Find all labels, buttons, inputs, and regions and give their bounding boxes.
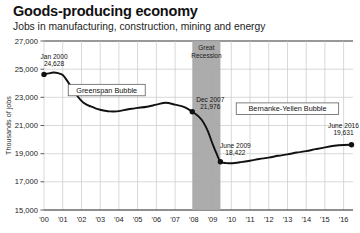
x-axis-tick-label: '13 (283, 215, 293, 224)
x-axis-tick-label: '02 (77, 215, 87, 224)
recession-band: GreatRecession (191, 41, 222, 210)
dec-2007-point-marker (190, 109, 195, 114)
x-axis-tick-label: '16 (339, 215, 349, 224)
dec-2007-point-label-value: 21,976 (200, 103, 221, 110)
x-axis-tick-label: '01 (58, 215, 68, 224)
june-2009-point-marker (218, 159, 223, 164)
recession-label-line2: Recession (191, 52, 222, 59)
x-axis-tick-label: '15 (320, 215, 330, 224)
x-axis-tick-label: '09 (208, 215, 218, 224)
june-2009-point-label-date: June 2009 (220, 142, 251, 149)
bernanke-yellen-bubble-label: Bernanke-Yellen Bubble (248, 104, 326, 113)
june-2009-point-label-value: 18,422 (225, 149, 246, 156)
y-axis-tick-label: 17,000 (15, 177, 38, 186)
x-axis-tick-label: '14 (301, 215, 311, 224)
y-axis-tick-label: 15,000 (15, 206, 38, 215)
y-axis-ticks: 27,00025,00023,00021,00019,00017,00015,0… (15, 37, 44, 215)
x-axis-tick-label: '08 (189, 215, 199, 224)
jan-2000-point-label-value: 24,628 (44, 60, 65, 67)
recession-label-line1: Great (198, 44, 214, 51)
x-axis-tick-label: '06 (152, 215, 162, 224)
chart-container: Goods-producing economy Jobs in manufact… (0, 0, 360, 233)
greenspan-bubble-label: Greenspan Bubble (76, 86, 137, 95)
jan-2000-point-label-date: Jan 2000 (40, 53, 67, 60)
june-2016-point-marker (349, 142, 354, 147)
y-axis-tick-label: 27,000 (15, 37, 38, 46)
x-axis-tick-label: '11 (245, 215, 254, 224)
y-axis-tick-label: 19,000 (15, 149, 38, 158)
line-chart-svg: GreatRecession 27,00025,00023,00021,0001… (0, 0, 360, 233)
x-axis-tick-label: '03 (95, 215, 105, 224)
y-axis-tick-label: 23,000 (15, 93, 38, 102)
y-axis-tick-label: 21,000 (15, 121, 38, 130)
x-axis-tick-label: '04 (114, 215, 124, 224)
dec-2007-point-label-date: Dec 2007 (196, 96, 225, 103)
y-axis-title: Thousands of jobs (4, 96, 13, 155)
y-axis-tick-label: 25,000 (15, 65, 38, 74)
june-2016-point-label-date: June 2016 (328, 122, 359, 129)
x-axis-tick-label: '10 (226, 215, 236, 224)
x-axis-tick-label: '05 (133, 215, 143, 224)
recession-shaded-region (192, 41, 220, 210)
june-2016-point-label-value: 19,631 (333, 129, 354, 136)
jan-2000-point-marker (41, 72, 46, 77)
x-axis-tick-label: '00 (39, 215, 49, 224)
x-axis-tick-label: '12 (264, 215, 274, 224)
y-axis-title: Thousands of jobs (4, 96, 13, 155)
x-axis-ticks: '00'01'02'03'04'05'06'07'08'09'10'11'12'… (39, 215, 348, 224)
x-axis-tick-label: '07 (170, 215, 180, 224)
